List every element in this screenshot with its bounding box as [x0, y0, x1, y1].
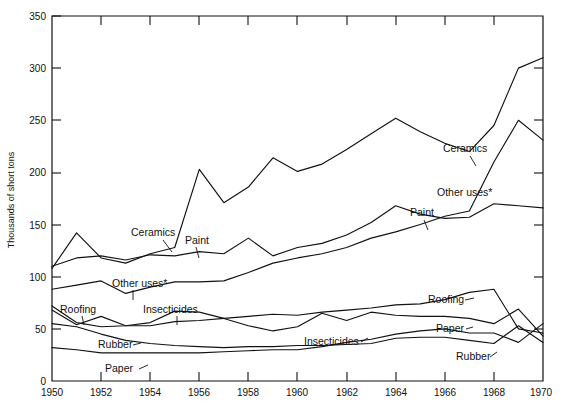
x-tick-label: 1964: [385, 387, 408, 398]
series-label-insecticides-left: Insecticides: [143, 303, 198, 315]
x-tick-label: 1950: [41, 387, 64, 398]
x-tick-label: 1962: [336, 387, 359, 398]
y-tick-label: 100: [29, 272, 46, 283]
series-label-paint-right: Paint: [410, 206, 434, 218]
series-label-rubber-right: Rubber: [456, 350, 491, 362]
series-label-roofing-right: Roofing: [428, 293, 464, 305]
y-tick-label: 300: [29, 63, 46, 74]
y-axis-ticklabels: 350 300 250 200 150 100 50 0: [29, 11, 46, 387]
y-tick-label: 200: [29, 167, 46, 178]
series-label-insecticides-right: Insecticides: [304, 335, 359, 347]
x-tick-label: 1954: [139, 387, 162, 398]
series-label-paper-right: Paper: [436, 322, 465, 334]
x-tick-label: 1960: [286, 387, 309, 398]
y-tick-label: 250: [29, 115, 46, 126]
line-chart: Thousands of short tons 350 300 250 200 …: [0, 0, 569, 407]
series-label-roofing-left: Roofing: [60, 303, 96, 315]
series-label-paint-left: Paint: [185, 234, 209, 246]
x-tick-label: 1956: [188, 387, 211, 398]
series-label-rubber-left: Rubber: [98, 338, 133, 350]
x-axis-ticklabels: 1950 1952 1954 1956 1958 1960 1962 1964 …: [41, 387, 553, 398]
series-line-insecticides: [52, 306, 543, 336]
x-tick-label: 1968: [483, 387, 506, 398]
series-label-ceramics-left: Ceramics: [131, 226, 175, 238]
series-label-paper-left: Paper: [105, 362, 134, 374]
series-line-ceramics: [52, 58, 543, 269]
y-axis-title: Thousands of short tons: [6, 151, 16, 248]
y-tick-label: 0: [40, 376, 46, 387]
series-line-paint: [52, 204, 543, 267]
x-tick-label: 1970: [530, 387, 553, 398]
chart-container: Thousands of short tons 350 300 250 200 …: [0, 0, 569, 407]
series-label-other-uses-left: Other uses*: [112, 277, 167, 289]
x-tick-label: 1966: [434, 387, 457, 398]
x-tick-label: 1952: [90, 387, 113, 398]
y-tick-label: 50: [35, 324, 47, 335]
y-tick-label: 350: [29, 11, 46, 22]
y-tick-label: 150: [29, 220, 46, 231]
x-tick-label: 1958: [237, 387, 260, 398]
series-label-other-uses-right: Other uses*: [437, 186, 492, 198]
series-annotations: Ceramics Paint Other uses* Roofing Insec…: [60, 142, 497, 374]
series-layer: [52, 58, 543, 353]
series-label-ceramics-right: Ceramics: [443, 142, 487, 154]
